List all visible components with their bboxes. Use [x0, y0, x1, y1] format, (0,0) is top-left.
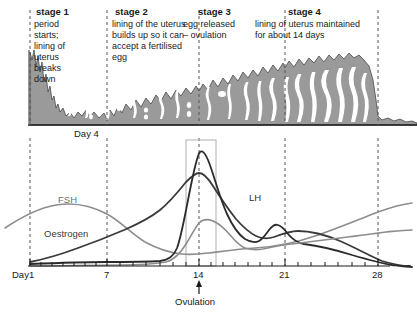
uterus-lining-panel [28, 50, 417, 125]
stage-1-line-5: breaks [34, 63, 65, 74]
stage-1-body: period starts; lining of uterus breaks d… [34, 19, 65, 85]
day-4-label: Day 4 [74, 128, 99, 139]
stage-3-line-1: egg released [183, 19, 235, 30]
stage-2-title: stage 2 [115, 6, 148, 17]
stage-4-line-2: for about 14 days [255, 30, 360, 41]
stage-1-line-6: down [34, 74, 65, 85]
stage-3-body: egg released – ovulation [183, 19, 235, 41]
ovulation-arrow [196, 280, 202, 294]
stage-1-line-3: lining of [34, 41, 65, 52]
curve-lh [30, 151, 412, 267]
stage-4-line-1: lining of uterus maintained [255, 19, 360, 30]
menstrual-cycle-diagram: stage 1 period starts; lining of uterus … [0, 0, 417, 317]
stage-1-line-1: period [34, 19, 65, 30]
curve-progesterone [30, 220, 412, 266]
lh-curve-label: LH [249, 192, 261, 203]
axis-tick-label-day1: Day1 [12, 269, 34, 280]
stage-2-line-3: accept a fertilised [112, 41, 186, 52]
stage-2-line-1: lining of the uterus [112, 19, 186, 30]
fsh-curve-label: FSH [58, 194, 77, 205]
axis-tick-label-day14: 14 [193, 269, 204, 280]
oestrogen-curve-label: Oestrogen [44, 228, 88, 239]
stage-4-title: stage 4 [288, 6, 321, 17]
ovulation-label: Ovulation [175, 296, 215, 307]
hormone-curves [5, 151, 412, 267]
stage-1-title: stage 1 [36, 6, 69, 17]
axis-tick-label-day21: 21 [279, 269, 290, 280]
stage-1-line-2: starts; [34, 30, 65, 41]
stage-4-body: lining of uterus maintained for about 14… [255, 19, 360, 41]
axis-tick-label-day7: 7 [104, 269, 109, 280]
stage-3-title: stage 3 [198, 6, 231, 17]
stage-3-line-2: – ovulation [183, 30, 235, 41]
stage-1-line-4: uterus [34, 52, 65, 63]
axis-tick-label-day28: 28 [372, 269, 383, 280]
stage-2-line-4: egg [112, 52, 186, 63]
stage-2-body: lining of the uterus builds up so it can… [112, 19, 186, 63]
stage-2-line-2: builds up so it can [112, 30, 186, 41]
ovulation-window-box [186, 140, 216, 266]
